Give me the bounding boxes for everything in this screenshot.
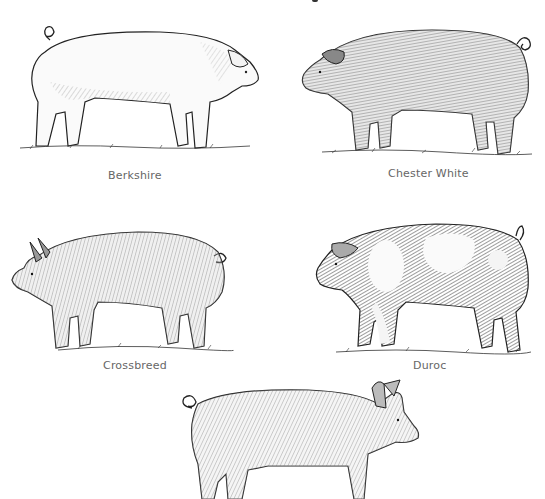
pig-illustration-middle-left	[8, 228, 238, 356]
caption-crossbreed: Crossbreed	[103, 359, 167, 372]
caption-duroc: Duroc	[413, 359, 447, 372]
caption-chester-white: Chester White	[388, 167, 469, 180]
caption-berkshire: Berkshire	[108, 169, 162, 182]
cropped-title-fragment	[312, 0, 318, 2]
pig-illustration-bottom-center	[168, 374, 428, 499]
pig-illustration-top-left	[10, 22, 270, 157]
pig-illustration-top-right	[292, 22, 542, 160]
pig-illustration-middle-right	[306, 218, 536, 358]
